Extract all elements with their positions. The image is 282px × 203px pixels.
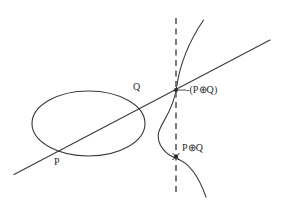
right-branch xyxy=(158,20,206,197)
oval-component xyxy=(32,91,145,156)
secant-line xyxy=(14,40,270,175)
point-label-q: Q xyxy=(133,82,140,92)
neg-sum-point-marker xyxy=(174,88,178,92)
diagram-canvas xyxy=(0,0,282,203)
point-label-p: P xyxy=(54,157,60,167)
elliptic-curve-diagram: P Q -(P⊕Q) P⊕Q xyxy=(0,0,282,203)
point-label-negative-sum: -(P⊕Q) xyxy=(186,85,217,95)
point-label-sum: P⊕Q xyxy=(182,143,203,153)
